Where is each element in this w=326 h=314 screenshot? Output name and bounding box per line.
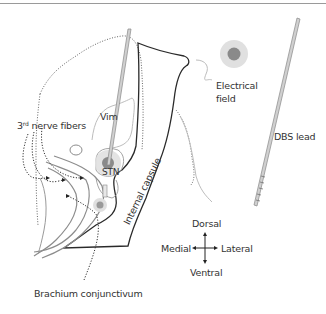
- third-nerve-fibers-label: 3rd nerve fibers: [17, 121, 86, 131]
- electrical-field-label-line2: field: [216, 94, 236, 104]
- medial-dotted-outline: [36, 94, 40, 225]
- ventral-label: Ventral: [190, 268, 222, 278]
- legend-dbs-lead: [254, 18, 300, 206]
- third-nerve-dotted-3: [42, 128, 82, 178]
- electrical-field-label-line1: Electrical: [216, 81, 258, 91]
- lateral-label: Lateral: [221, 244, 253, 254]
- medial-label: Medial: [161, 244, 191, 254]
- lateral-gray-outline-2: [180, 116, 212, 202]
- brachium-conjunctivum-label: Brachium conjunctivum: [34, 289, 142, 299]
- electrical-field-ventral-inner: [97, 202, 104, 209]
- lead-tip: [103, 185, 107, 197]
- arrow-head-4: [66, 194, 70, 198]
- brachium-dotted-line: [68, 196, 98, 280]
- stn-label: STN: [102, 168, 119, 177]
- dbs-lead-in-brain: [107, 29, 131, 165]
- arrow-head-1: [46, 176, 50, 180]
- arrow-up-icon: [203, 232, 207, 236]
- arrow-down-icon: [203, 260, 207, 264]
- dorsal-label: Dorsal: [192, 219, 221, 229]
- anatomy-diagram: [0, 0, 326, 314]
- arrow-right-icon: [214, 246, 218, 250]
- fiber-curve-4: [38, 178, 46, 254]
- small-nucleus-outline: [70, 145, 82, 155]
- vim-label: Vim: [100, 112, 118, 122]
- third-nerve-dotted-1: [23, 134, 48, 179]
- lateral-gray-outline: [196, 60, 212, 80]
- legend-field-inner: [228, 48, 241, 61]
- dbs-lead-label: DBS lead: [274, 132, 315, 142]
- third-nerve-suffix: nerve fibers: [29, 120, 86, 131]
- orientation-cross: [194, 234, 216, 262]
- arrow-left-icon: [192, 246, 196, 250]
